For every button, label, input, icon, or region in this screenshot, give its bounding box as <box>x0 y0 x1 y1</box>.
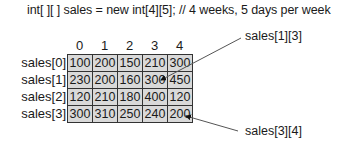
callout-label-sales-3-4: sales[3][4] <box>245 124 302 138</box>
arrow-to-sales-1-3 <box>161 38 241 80</box>
callout-label-sales-1-3: sales[1][3] <box>245 29 302 43</box>
arrow-to-sales-3-4 <box>186 116 238 131</box>
